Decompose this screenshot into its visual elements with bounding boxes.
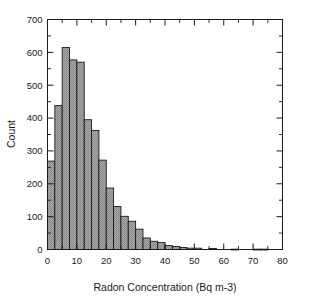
histogram-bar: [70, 60, 77, 250]
x-axis-tick-labels: 01020304050607080: [45, 255, 288, 266]
x-tick-label: 40: [160, 255, 171, 266]
x-tick-label: 60: [218, 255, 229, 266]
histogram-bar: [114, 206, 121, 249]
x-tick-label: 30: [130, 255, 141, 266]
y-tick-label: 500: [27, 80, 43, 91]
histogram-bar: [121, 216, 128, 249]
radon-histogram-chart: 0100200300400500600700 01020304050607080…: [0, 0, 310, 307]
histogram-bar: [99, 160, 106, 249]
histogram-figure: 0100200300400500600700 01020304050607080…: [0, 0, 310, 307]
x-tick-label: 10: [72, 255, 83, 266]
histogram-bar: [55, 106, 62, 250]
histogram-bar: [158, 243, 165, 250]
histogram-bar: [128, 221, 135, 249]
histogram-bar: [84, 120, 91, 250]
histogram-bar: [62, 47, 69, 249]
x-axis-title: Radon Concentration (Bq m-3): [94, 281, 237, 293]
histogram-bar: [48, 161, 55, 249]
y-tick-label: 100: [27, 211, 43, 222]
histogram-bar: [92, 131, 99, 250]
y-tick-label: 0: [37, 244, 42, 255]
histogram-bar: [106, 188, 113, 249]
y-tick-label: 300: [27, 145, 43, 156]
histogram-bar: [150, 241, 157, 249]
y-tick-label: 700: [27, 14, 43, 25]
x-tick-label: 0: [45, 255, 50, 266]
histogram-bar: [136, 229, 143, 249]
y-tick-label: 400: [27, 112, 43, 123]
x-tick-label: 80: [277, 255, 288, 266]
histogram-bar: [77, 62, 84, 249]
histogram-bar: [165, 246, 172, 250]
x-tick-label: 50: [189, 255, 200, 266]
y-tick-label: 600: [27, 47, 43, 58]
y-tick-label: 200: [27, 178, 43, 189]
histogram-bar: [143, 238, 150, 250]
y-axis-title: Count: [5, 120, 17, 148]
x-tick-label: 70: [248, 255, 259, 266]
x-tick-label: 20: [101, 255, 112, 266]
